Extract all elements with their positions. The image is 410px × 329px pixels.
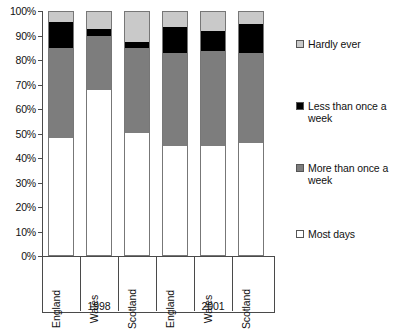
segment-less-than-once-a-week xyxy=(201,31,225,50)
bar-england-1998 xyxy=(48,11,74,256)
legend-swatch-more-than-once-a-week-icon xyxy=(296,164,304,172)
legend-swatch-hardly-ever-icon xyxy=(296,40,304,48)
group-label-2001: 2001 xyxy=(194,300,232,312)
legend-label-most-days: Most days xyxy=(308,228,355,240)
y-tick-label-70: 70% xyxy=(16,80,36,90)
legend-label-hardly-ever: Hardly ever xyxy=(308,38,361,50)
group-axis: 1998 2001 xyxy=(42,300,275,322)
segment-most-days xyxy=(49,138,73,255)
y-tick-label-90: 90% xyxy=(16,31,36,41)
legend-item-hardly-ever[interactable]: Hardly ever xyxy=(296,38,361,50)
y-tick-label-30: 30% xyxy=(16,178,36,188)
segment-more-than-once-a-week xyxy=(49,48,73,138)
segment-more-than-once-a-week xyxy=(125,48,149,133)
y-axis: 100% 90% 80% 70% 60% 50% 40% 30% 20% 10%… xyxy=(0,0,40,270)
plot-area xyxy=(42,11,275,257)
segment-most-days xyxy=(125,133,149,255)
bars-layer xyxy=(43,11,275,256)
segment-most-days xyxy=(163,146,187,255)
legend-swatch-less-than-once-a-week-icon xyxy=(296,102,304,110)
bar-england-2001 xyxy=(162,11,188,256)
segment-most-days xyxy=(87,90,111,255)
legend-item-most-days[interactable]: Most days xyxy=(296,228,355,240)
segment-less-than-once-a-week xyxy=(163,27,187,54)
segment-most-days xyxy=(201,146,225,255)
segment-more-than-once-a-week xyxy=(163,53,187,145)
y-tick-label-20: 20% xyxy=(16,202,36,212)
y-tick-label-60: 60% xyxy=(16,104,36,114)
segment-hardly-ever xyxy=(201,12,225,31)
segment-hardly-ever xyxy=(87,12,111,29)
segment-less-than-once-a-week xyxy=(49,22,73,49)
legend-label-less-than-once-a-week: Less than once a week xyxy=(308,100,410,124)
y-tick-label-40: 40% xyxy=(16,153,36,163)
bar-wales-1998 xyxy=(86,11,112,256)
y-tick-label-100: 100% xyxy=(10,6,36,16)
legend-item-more-than-once-a-week[interactable]: More than once a week xyxy=(296,162,410,186)
segment-hardly-ever xyxy=(239,12,263,24)
segment-most-days xyxy=(239,143,263,255)
segment-hardly-ever xyxy=(125,12,149,42)
segment-more-than-once-a-week xyxy=(239,53,263,143)
y-tick-label-10: 10% xyxy=(16,227,36,237)
segment-hardly-ever xyxy=(163,12,187,27)
legend-label-more-than-once-a-week: More than once a week xyxy=(308,162,410,186)
legend: Hardly ever Less than once a week More t… xyxy=(296,0,410,270)
bar-scotland-2001 xyxy=(238,11,264,256)
segment-more-than-once-a-week xyxy=(87,36,111,89)
segment-hardly-ever xyxy=(49,12,73,22)
legend-swatch-most-days-icon xyxy=(296,230,304,238)
segment-less-than-once-a-week xyxy=(239,24,263,53)
y-tick-label-50: 50% xyxy=(16,129,36,139)
bar-scotland-1998 xyxy=(124,11,150,256)
y-tick-label-0: 0% xyxy=(21,251,36,261)
segment-less-than-once-a-week xyxy=(87,29,111,36)
y-tick-label-80: 80% xyxy=(16,55,36,65)
legend-item-less-than-once-a-week[interactable]: Less than once a week xyxy=(296,100,410,124)
segment-more-than-once-a-week xyxy=(201,51,225,146)
bar-wales-2001 xyxy=(200,11,226,256)
group-label-1998: 1998 xyxy=(80,300,118,312)
